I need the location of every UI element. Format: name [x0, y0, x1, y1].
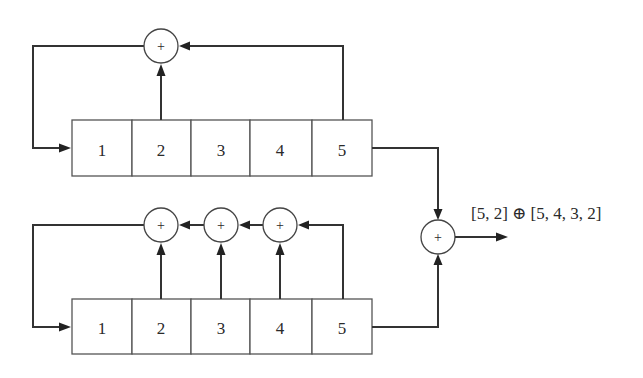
- bottom-register: 1 2 3 4 5: [72, 299, 372, 354]
- adder-plus-icon: +: [276, 218, 284, 233]
- top-tap-5-wire: [188, 46, 343, 120]
- bottom-cell-1-label: 1: [98, 319, 107, 338]
- bottom-cell-2-label: 2: [157, 319, 166, 338]
- top-cell-2-label: 2: [157, 141, 166, 160]
- arrow-head: [217, 243, 226, 255]
- arrow-head: [434, 209, 443, 220]
- top-cell-3-label: 3: [217, 141, 226, 160]
- bottom-cell-5-label: 5: [338, 319, 347, 338]
- bottom-cell-3-label: 3: [217, 319, 226, 338]
- top-cell-1-label: 1: [98, 141, 107, 160]
- lfsr-diagram: 1 2 3 4 5 + 1 2 3 4 5: [0, 0, 643, 378]
- diagram-canvas: 1 2 3 4 5 + 1 2 3 4 5: [0, 0, 643, 378]
- bottom-cell-4-label: 4: [276, 319, 285, 338]
- bottom-output-wire: [372, 262, 438, 327]
- arrow-head: [239, 221, 250, 230]
- top-register: 1 2 3 4 5: [72, 120, 372, 176]
- arrow-head: [59, 323, 71, 332]
- output-combiner: + [5, 2] ⊕ [5, 4, 3, 2]: [372, 148, 601, 327]
- arrow-head: [179, 221, 190, 230]
- arrow-head: [434, 254, 443, 265]
- adder-plus-icon: +: [157, 218, 165, 233]
- arrow-head: [298, 221, 309, 230]
- adder-plus-icon: +: [157, 39, 165, 54]
- top-cell-5-label: 5: [338, 141, 347, 160]
- arrow-head: [157, 64, 166, 76]
- arrow-head: [59, 144, 71, 153]
- top-output-wire: [372, 148, 438, 212]
- arrow-head: [157, 243, 166, 255]
- bottom-tap-5-wire: [307, 225, 343, 299]
- arrow-head: [496, 233, 508, 242]
- adder-plus-icon: +: [217, 218, 225, 233]
- top-cell-4-label: 4: [276, 141, 285, 160]
- arrow-head: [276, 243, 285, 255]
- adder-plus-icon: +: [434, 230, 442, 245]
- arrow-head: [179, 42, 190, 51]
- output-label: [5, 2] ⊕ [5, 4, 3, 2]: [471, 204, 601, 223]
